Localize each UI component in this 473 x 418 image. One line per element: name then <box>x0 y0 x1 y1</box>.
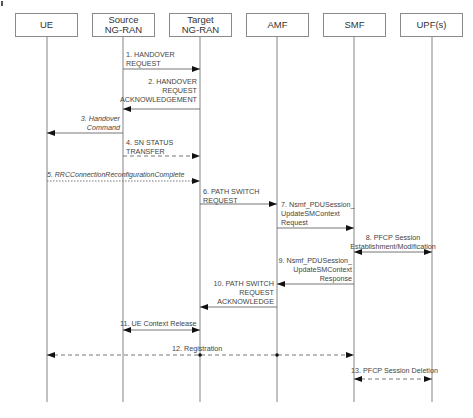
msg-6-label: 6. PATH SWITCH REQUEST <box>203 187 259 205</box>
msg-4-label: 4. SN STATUS TRANSFER <box>126 138 173 156</box>
msg-3-label: 3. Handover Command <box>60 114 120 132</box>
msg-7-label: 7. Nsmf_PDUSession_ UpdateSMContext Requ… <box>281 200 355 227</box>
lifelines <box>47 37 432 402</box>
msg-13-label: 13. PFCP Session Deletion <box>351 366 438 375</box>
msg-10-label: 10. PATH SWITCH REQUEST ACKNOWLEDGE <box>196 279 274 306</box>
msg-5-label: 5. RRCConnectionReconfigurationComplete <box>47 170 184 179</box>
msg-11-label: 11. UE Context Release <box>120 319 197 328</box>
msg-9-label: 9. Nsmf_PDUSession_ UpdateSMContext Resp… <box>266 256 352 283</box>
msg-12-label: 12. Registration <box>172 344 222 353</box>
msg-1-label: 1. HANDOVER REQUEST <box>126 50 175 68</box>
sequence-diagram <box>0 0 473 418</box>
msg-8-label: 8. PFCP Session Establishment/Modificati… <box>344 233 442 251</box>
junction-dot-target <box>198 353 202 357</box>
corner-mark <box>1 1 3 6</box>
msg-2-label: 2. HANDOVER REQUEST ACKNOWLEDGEMENT <box>118 77 197 104</box>
junction-dot-amf <box>275 353 279 357</box>
